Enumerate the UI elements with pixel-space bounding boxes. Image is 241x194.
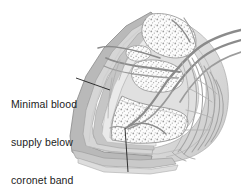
minimal-blood-line-3: coronet band	[11, 174, 77, 187]
minimal-blood-line-1: Minimal blood	[11, 98, 77, 111]
terminal-arch-label: Terminal arch	[96, 176, 160, 194]
minimal-blood-line-2: supply below	[11, 136, 77, 149]
minimal-blood-supply-label: Minimal blood supply below coronet band	[11, 73, 77, 194]
anatomical-figure: Minimal blood supply below coronet band …	[0, 0, 241, 194]
